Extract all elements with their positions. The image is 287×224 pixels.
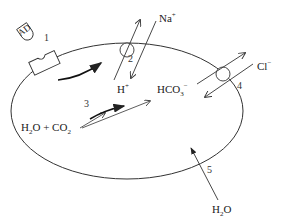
signal-arrow [58, 63, 101, 80]
cl-label: Cl− [257, 60, 271, 72]
label-2: 2 [128, 54, 133, 64]
label-4: 4 [237, 81, 242, 91]
h2o-co2-label: H2O + CO2 [21, 122, 71, 136]
h-label: H+ [117, 83, 129, 95]
na-label: Na+ [159, 12, 176, 24]
hco3-label: HCO3− [157, 83, 188, 98]
label-3: 3 [84, 99, 89, 109]
label-1: 1 [44, 33, 49, 43]
label-5: 5 [207, 165, 212, 175]
water-label: H2O [212, 204, 231, 218]
receptor-shape [29, 51, 60, 76]
cl-hco3-exchanger [216, 67, 230, 81]
